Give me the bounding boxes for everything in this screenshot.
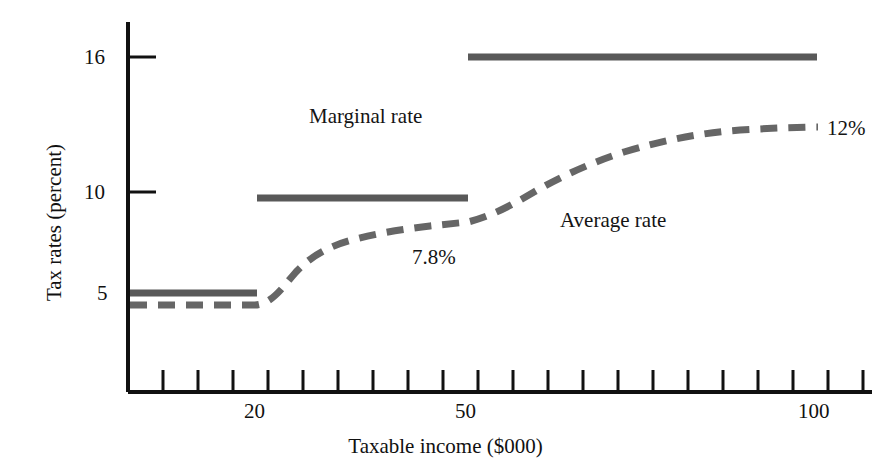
marginal-rate-series — [130, 57, 817, 293]
y-axis-ticks — [128, 57, 156, 293]
marginal-rate-label: Marginal rate — [309, 104, 422, 129]
y-tick-label-5: 5 — [97, 281, 108, 306]
x-tick-label-100: 100 — [798, 399, 830, 424]
chart-plot-area — [0, 0, 891, 466]
tax-rates-chart: 16 10 5 20 50 100 Marginal rate Average … — [0, 0, 891, 466]
average-rate-label: Average rate — [560, 208, 666, 233]
x-axis-ticks — [163, 370, 863, 392]
x-tick-label-50: 50 — [455, 399, 476, 424]
average-rate-value-at-100: 12% — [827, 116, 866, 141]
average-rate-value-at-50: 7.8% — [412, 245, 456, 270]
average-rate-series — [130, 127, 818, 305]
y-tick-label-16: 16 — [84, 45, 105, 70]
y-tick-label-10: 10 — [84, 180, 105, 205]
x-tick-label-20: 20 — [244, 399, 265, 424]
y-axis-title: Tax rates (percent) — [42, 123, 67, 323]
x-axis-title: Taxable income ($000) — [0, 434, 891, 459]
